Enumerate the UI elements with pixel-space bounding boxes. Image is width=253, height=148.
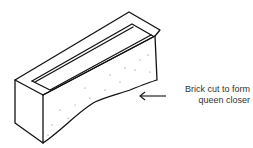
- annotation-line-2: queen closer: [170, 95, 250, 106]
- annotation-label: Brick cut to form queen closer: [170, 84, 250, 106]
- pointer-arrow-icon: [140, 92, 166, 100]
- diagram: Brick cut to form queen closer: [0, 0, 253, 148]
- brick-drawing: [0, 0, 253, 148]
- annotation-line-1: Brick cut to form: [170, 84, 250, 95]
